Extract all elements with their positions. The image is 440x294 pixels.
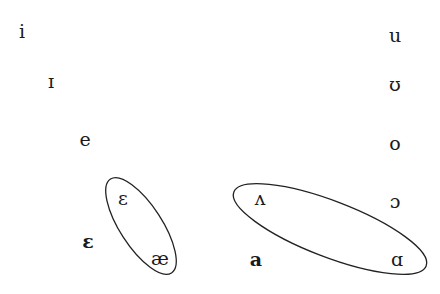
vowel-chart: i ɪ e ɛ ɛ æ ʌ a u ʊ o ɔ ɑ (0, 0, 440, 294)
grouping-outlines (0, 0, 440, 294)
vowel-upsilon: ʊ (389, 75, 401, 94)
vowel-open-mid-front-circled: ɛ (118, 189, 128, 208)
vowel-open-o: ɔ (390, 192, 401, 211)
back-group-ellipse (224, 166, 436, 292)
vowel-wedge: ʌ (255, 189, 266, 208)
vowel-open-mid-front-bold: ɛ (82, 232, 94, 251)
front-group-ellipse (93, 168, 189, 285)
vowel-near-close-front: ɪ (48, 72, 54, 91)
vowel-a: a (250, 250, 262, 269)
vowel-script-a: ɑ (391, 250, 403, 269)
vowel-i: i (19, 22, 25, 41)
vowel-ae: æ (151, 249, 169, 268)
vowel-e: e (79, 130, 90, 149)
vowel-o: o (389, 134, 400, 153)
vowel-u: u (389, 26, 401, 45)
